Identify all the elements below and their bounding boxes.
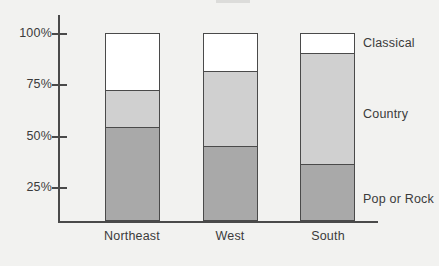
bar-segment-south-classical[interactable]	[301, 34, 354, 53]
y-tick-mark-75	[52, 84, 67, 86]
y-tick-label-50: 50%	[6, 130, 52, 143]
legend-item-pop-or-rock: Pop or Rock	[363, 193, 434, 206]
bar-northeast[interactable]	[105, 33, 160, 221]
y-tick-mark-100	[52, 33, 67, 35]
y-tick-label-75: 75%	[6, 78, 52, 91]
y-tick-mark-25	[52, 187, 67, 189]
stacked-bar-chart: 100% 75% 50% 25% Northeast West South Cl…	[0, 0, 439, 266]
bar-west[interactable]	[203, 33, 258, 221]
bar-segment-south-pop-or-rock[interactable]	[301, 164, 354, 220]
cropped-top-artifact	[216, 0, 250, 3]
bar-segment-west-classical[interactable]	[204, 34, 257, 71]
bar-segment-south-country[interactable]	[301, 53, 354, 165]
y-tick-label-100: 100%	[6, 27, 52, 40]
bar-segment-northeast-country[interactable]	[106, 90, 159, 127]
legend-item-classical: Classical	[363, 37, 415, 50]
y-tick-mark-50	[52, 136, 67, 138]
bar-segment-west-country[interactable]	[204, 71, 257, 145]
y-axis-line	[58, 15, 60, 223]
x-axis-label-south: South	[268, 230, 388, 243]
y-tick-label-25: 25%	[6, 181, 52, 194]
legend-item-country: Country	[363, 108, 408, 121]
x-axis-line	[58, 221, 378, 223]
bar-segment-west-pop-or-rock[interactable]	[204, 146, 257, 220]
bar-segment-northeast-pop-or-rock[interactable]	[106, 127, 159, 220]
bar-south[interactable]	[300, 33, 355, 221]
bar-segment-northeast-classical[interactable]	[106, 34, 159, 90]
